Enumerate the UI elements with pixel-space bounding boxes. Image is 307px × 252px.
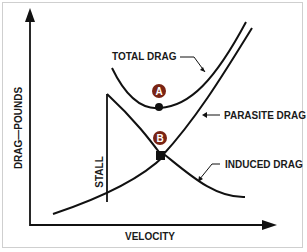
x-axis-label: VELOCITY [125, 231, 175, 242]
y-axis-arrow-icon [25, 8, 35, 22]
total-drag-curve [112, 22, 246, 108]
y-axis-label: DRAG—POUNDS [13, 87, 24, 170]
parasite-drag-curve [107, 28, 252, 156]
x-axis [30, 220, 277, 230]
y-axis [25, 8, 35, 226]
induced-drag-leader [199, 164, 220, 180]
stall-label: STALL [94, 156, 105, 187]
total-drag-label: TOTAL DRAG [112, 51, 177, 62]
induced-drag-label: INDUCED DRAG [225, 159, 303, 170]
drag-diagram: DRAG—POUNDS VELOCITY STALL A B TOTAL DRA… [0, 0, 307, 252]
point-b-label: B [156, 133, 163, 144]
parasite-drag-label: PARASITE DRAG [224, 110, 306, 121]
point-a-label: A [155, 86, 162, 97]
x-axis-arrow-icon [262, 220, 277, 230]
